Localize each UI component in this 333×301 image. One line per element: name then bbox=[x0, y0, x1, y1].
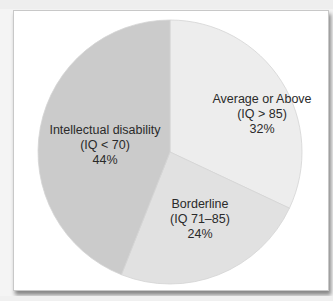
slice-percent: 44% bbox=[40, 153, 170, 168]
slice-range: (IQ 71–85) bbox=[160, 212, 240, 227]
slice-range: (IQ > 85) bbox=[207, 107, 317, 122]
slice-label-borderline: Borderline (IQ 71–85) 24% bbox=[160, 197, 240, 242]
slice-label-intellectual-disability: Intellectual disability (IQ < 70) 44% bbox=[40, 123, 170, 168]
slice-name: Average or Above bbox=[207, 92, 317, 107]
slice-label-average: Average or Above (IQ > 85) 32% bbox=[207, 92, 317, 137]
slice-range: (IQ < 70) bbox=[40, 138, 170, 153]
slice-percent: 32% bbox=[207, 122, 317, 137]
slice-name: Intellectual disability bbox=[40, 123, 170, 138]
slice-percent: 24% bbox=[160, 227, 240, 242]
slice-name: Borderline bbox=[160, 197, 240, 212]
